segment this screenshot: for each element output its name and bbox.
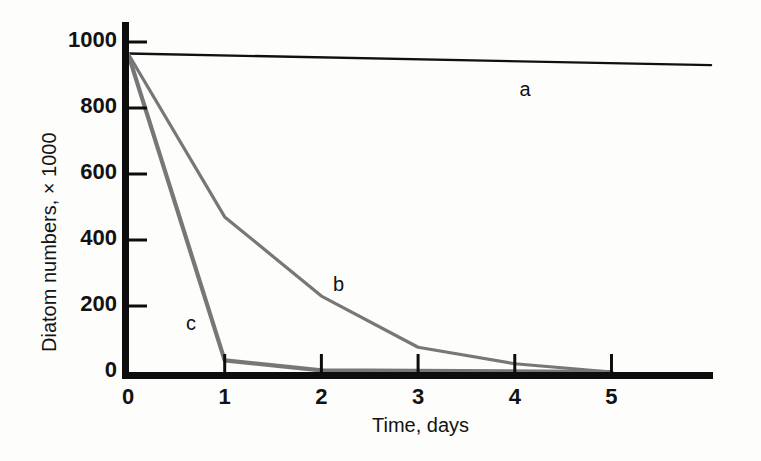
y-tick-label-2: 400 xyxy=(80,225,117,251)
y-tick-label-0: 0 xyxy=(105,357,117,383)
y-tick-label-3: 600 xyxy=(80,159,117,185)
y-tick-label-5: 1000 xyxy=(68,27,117,53)
series-label-b: b xyxy=(333,273,344,296)
x-axis-title: Time, days xyxy=(372,414,469,437)
y-tick-label-1: 200 xyxy=(80,291,117,317)
x-tick-label-4: 4 xyxy=(485,384,545,410)
y-axis-spine xyxy=(122,22,129,379)
x-tick-label-5: 5 xyxy=(581,384,641,410)
x-tick-label-2: 2 xyxy=(291,384,351,410)
series-line-c xyxy=(128,54,611,372)
series-line-b xyxy=(128,54,611,372)
series-label-c: c xyxy=(186,312,196,335)
x-tick-label-1: 1 xyxy=(195,384,255,410)
y-axis-title: Diatom numbers, × 1000 xyxy=(38,132,61,352)
series-group xyxy=(128,54,711,372)
chart-figure: 02004006008001000 012345 abc Diatom numb… xyxy=(0,0,761,461)
x-tick-label-0: 0 xyxy=(98,384,158,410)
series-line-a xyxy=(128,54,711,66)
series-label-a: a xyxy=(520,78,531,101)
x-tick-label-3: 3 xyxy=(388,384,448,410)
y-tick-label-4: 800 xyxy=(80,93,117,119)
x-axis-spine xyxy=(122,372,713,379)
axis-group xyxy=(122,22,713,379)
